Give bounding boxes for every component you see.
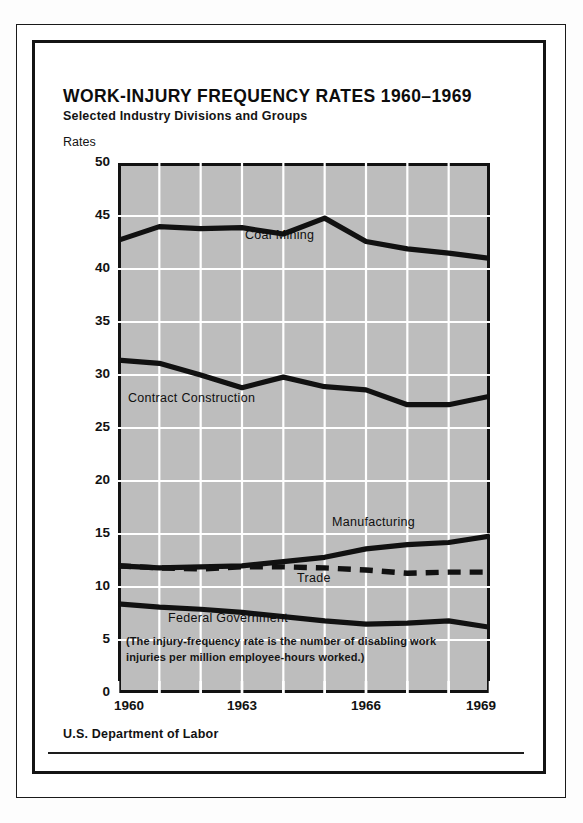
footer-agency: U.S. Department of Labor	[63, 727, 219, 741]
y-tick-40: 40	[70, 260, 110, 275]
series-label-manufacturing: Manufacturing	[332, 515, 415, 529]
y-tick-25: 25	[70, 419, 110, 434]
y-tick-10: 10	[70, 578, 110, 593]
page-subtitle: Selected Industry Divisions and Groups	[63, 109, 493, 123]
series-label-trade: Trade	[297, 571, 331, 585]
x-tick-1963: 1963	[219, 698, 265, 713]
y-tick-0: 0	[70, 684, 110, 699]
chart-note-line-1: (The injury-frequency rate is the number…	[126, 634, 482, 650]
x-tick-1969: 1969	[450, 698, 496, 713]
series-label-contract-construction: Contract Construction	[128, 391, 255, 405]
chart-note: (The injury-frequency rate is the number…	[126, 634, 482, 666]
y-tick-15: 15	[70, 525, 110, 540]
page-title: WORK-INJURY FREQUENCY RATES 1960–1969	[63, 86, 493, 107]
y-tick-20: 20	[70, 472, 110, 487]
series-label-coal-mining: Coal Mining	[245, 228, 314, 242]
chart-page: WORK-INJURY FREQUENCY RATES 1960–1969 Se…	[0, 0, 583, 823]
y-tick-45: 45	[70, 207, 110, 222]
chart-note-line-2: injuries per million employee-hours work…	[126, 650, 482, 666]
y-tick-50: 50	[70, 154, 110, 169]
footer-divider	[48, 752, 524, 754]
x-tick-1966: 1966	[343, 698, 389, 713]
x-tick-1960: 1960	[114, 698, 160, 713]
y-tick-35: 35	[70, 313, 110, 328]
y-tick-5: 5	[70, 631, 110, 646]
y-tick-30: 30	[70, 366, 110, 381]
y-axis-unit-label: Rates	[63, 135, 96, 149]
series-label-federal-government: Federal Government	[168, 611, 288, 625]
